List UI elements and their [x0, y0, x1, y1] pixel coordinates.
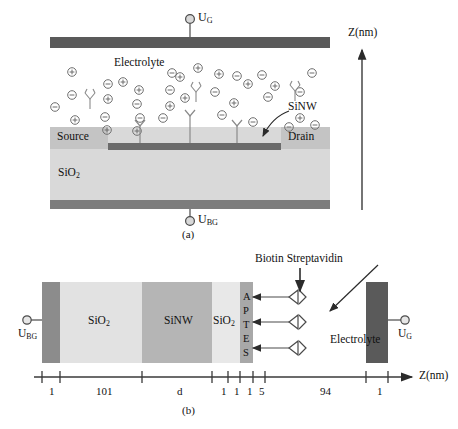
aptes-letter: T — [243, 320, 249, 331]
device-schematic-figure — [0, 0, 458, 429]
ion-positive — [230, 99, 239, 108]
layer-label-sio2-thin: SiO2 — [213, 315, 235, 328]
axis-tick-label: 5 — [259, 386, 265, 397]
antibody-marker — [191, 82, 201, 102]
ion-positive — [215, 70, 224, 79]
right-gate-electrode — [366, 282, 388, 363]
ion-positive — [271, 82, 280, 91]
ion-positive — [104, 95, 113, 104]
ion-negative — [308, 69, 317, 78]
ion-positive — [119, 78, 128, 87]
panel-a — [50, 15, 362, 226]
ion-positive — [244, 80, 253, 89]
right-gate-terminal-node — [401, 316, 409, 324]
layer-label-sinw: SiNW — [164, 315, 193, 327]
ion-negative — [233, 72, 242, 81]
sinw-label-a: SiNW — [288, 101, 317, 113]
ion-positive — [176, 73, 185, 82]
top-gate-electrode — [50, 37, 330, 48]
ion-negative — [51, 103, 60, 112]
ion-positive — [296, 114, 305, 123]
antibody-marker — [85, 89, 95, 109]
ion-negative — [159, 114, 168, 123]
ion-negative — [101, 113, 110, 122]
ion-positive — [194, 64, 203, 73]
left-terminal-label-b: UBG — [18, 328, 37, 341]
biotin-streptavidin-complex — [253, 315, 306, 329]
panel-b-caption: (b) — [182, 405, 195, 416]
axis-tick-label: 1 — [377, 386, 383, 397]
electrolyte-label-b: Electrolyte — [330, 334, 380, 346]
axis-tick-label: 1 — [247, 386, 253, 397]
ion-positive — [166, 102, 175, 111]
biotin-streptavidin-label: Biotin Streptavidin — [255, 253, 343, 265]
bottom-gate-electrode — [50, 200, 330, 209]
aptes-letter: E — [243, 334, 249, 345]
axis-tick-label: 94 — [320, 386, 331, 397]
bottom-gate-terminal-node — [186, 217, 195, 226]
drain-label: Drain — [288, 131, 314, 143]
axis-tick-label: d — [177, 386, 183, 397]
panel-a-caption: (a) — [182, 229, 194, 240]
ion-negative — [133, 100, 142, 109]
ion-negative — [211, 88, 220, 97]
ion-negative — [264, 93, 273, 102]
ion-negative — [68, 91, 77, 100]
z-axis-label-a: Z(nm) — [348, 27, 377, 39]
bottom-gate-terminal-label: UBG — [198, 213, 218, 227]
top-gate-terminal-node — [186, 15, 195, 24]
axis-tick-label: 1 — [49, 386, 55, 397]
ion-positive — [71, 116, 80, 125]
left-gate-terminal-node — [23, 316, 31, 324]
ion-positive — [181, 94, 190, 103]
ion-negative — [104, 80, 113, 89]
right-terminal-label-b: UG — [398, 328, 412, 341]
aptes-letter: S — [243, 348, 249, 359]
layer-metal-back-gate — [42, 282, 60, 363]
axis-tick-label: 1 — [221, 386, 227, 397]
ion-negative — [166, 86, 175, 95]
sio2-label-a: SiO2 — [58, 167, 80, 180]
z-axis-label-b: Z(nm) — [419, 370, 448, 382]
ion-negative — [136, 114, 145, 123]
ion-negative — [249, 118, 258, 127]
ion-positive — [68, 68, 77, 77]
aptes-letter: P — [243, 306, 249, 317]
sinw-bar — [108, 143, 281, 150]
ion-positive — [135, 86, 144, 95]
axis-tick-label: 101 — [96, 386, 113, 397]
layer-label-sio2-thick: SiO2 — [88, 315, 110, 328]
biotin-streptavidin-complex — [253, 290, 306, 304]
biotin-streptavidin-complex — [253, 341, 306, 355]
aptes-letter: A — [243, 292, 251, 303]
antibody-marker — [290, 81, 300, 101]
ion-negative — [168, 69, 177, 78]
electrolyte-label-a: Electrolyte — [114, 57, 164, 69]
ion-negative — [218, 111, 227, 120]
ion-negative — [258, 71, 267, 80]
source-label: Source — [57, 131, 89, 143]
axis-tick-label: 1 — [234, 386, 240, 397]
top-gate-terminal-label: UG — [198, 11, 213, 25]
